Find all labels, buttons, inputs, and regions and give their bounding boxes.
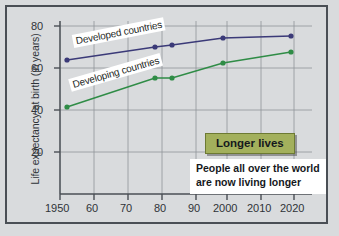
y-tick-marks [54,26,60,152]
data-point [220,60,225,65]
x-tick-label-1990: 90 [188,202,200,214]
data-point [288,49,293,54]
x-tick-label-1950: 1950 [45,202,69,214]
data-point [64,57,69,62]
data-point [169,42,174,47]
x-tick-label-1970: 70 [120,202,132,214]
chart-screenshot: Life expectancy at birth (in years) 80 6… [0,0,339,236]
data-point [288,33,293,38]
caption-line-2: are now living longer [196,176,320,190]
y-tick-label-80: 80 [31,20,43,32]
data-point [64,104,69,109]
x-tick-label-2020: 2020 [280,202,304,214]
longer-lives-badge: Longer lives [205,133,295,154]
chart-frame: Life expectancy at birth (in years) 80 6… [5,5,328,224]
data-point [152,44,157,49]
y-tick-label-20: 20 [31,146,43,158]
y-tick-label-40: 40 [31,104,43,116]
caption-box: People all over the world are now living… [190,159,326,194]
y-tick-label-60: 60 [31,62,43,74]
x-tick-label-2000: 2000 [213,202,237,214]
data-point [152,75,157,80]
data-point [169,75,174,80]
x-tick-label-1980: 80 [154,202,166,214]
x-tick-label-2010: 2010 [247,202,271,214]
caption-line-1: People all over the world [196,162,320,176]
x-tick-marks [60,194,294,200]
x-tick-label-1960: 60 [86,202,98,214]
data-point [220,35,225,40]
